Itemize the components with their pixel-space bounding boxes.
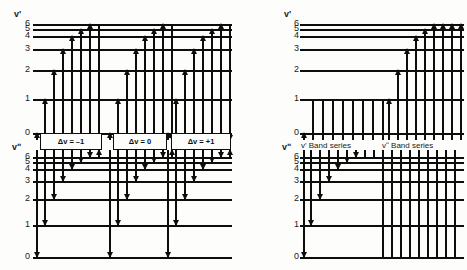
left-transition-dv0-up-4 xyxy=(153,29,155,140)
right-upper-series-tick-6 xyxy=(372,99,374,140)
left-transition-dv0-down-1 xyxy=(126,150,128,199)
right-lower-level-label-0: 0 xyxy=(285,252,299,261)
delta-v-plus-one-caption: Δv = +1 xyxy=(171,133,231,150)
left-transition-dv0-up-4-head xyxy=(151,28,157,34)
right-lower-series-tick-5 xyxy=(427,150,429,257)
left-lower-level-label-0: 0 xyxy=(16,252,30,261)
left-transition-dvp1-down-2-head xyxy=(191,176,197,182)
right-upper-level-label-2: 2 xyxy=(285,65,299,74)
delta-v-minus-one-caption: Δv = –1 xyxy=(40,133,102,150)
right-lower-series-tick-2 xyxy=(400,150,402,257)
left-transition-dvm1-up-2 xyxy=(62,49,64,140)
left-lower-level-label-2: 2 xyxy=(16,194,30,203)
right-upper-series-arrow-2-head xyxy=(404,48,410,54)
left-transition-dvm1-up-4 xyxy=(80,29,82,140)
left-upper-level-6 xyxy=(33,24,232,26)
left-transition-dvp1-origin-down-head xyxy=(165,252,171,258)
left-transition-dvm1-down-5-head xyxy=(87,152,93,158)
right-upper-series-origin-head xyxy=(301,132,307,138)
right-upper-series-tick-0 xyxy=(312,99,314,140)
right-upper-series-arrow-1-head xyxy=(395,69,401,75)
left-transition-dvm1-up-3-head xyxy=(69,35,75,41)
left-lower-level-1 xyxy=(33,225,232,227)
left-transition-dvm1-down-3-head xyxy=(69,164,75,170)
left-transition-dvm1-up-0-head xyxy=(42,98,48,104)
right-lower-level-label-1: 1 xyxy=(285,220,299,229)
left-transition-dvm1-down-1 xyxy=(53,150,55,199)
left-lower-level-label-4: 4 xyxy=(16,164,30,173)
left-lower-level-2 xyxy=(33,199,232,201)
left-transition-dvp1-down-1-head xyxy=(182,194,188,200)
left-transition-dvm1-down-1-head xyxy=(51,194,57,200)
left-transition-dv0-up-1-head xyxy=(124,69,130,75)
left-transition-dvp1-up-1 xyxy=(184,70,186,140)
right-lower-series-tick-4 xyxy=(418,150,420,257)
right-upper-series-long-1-head xyxy=(449,23,455,29)
right-upper-series-arrow-4 xyxy=(424,29,426,140)
right-lower-series-origin-head xyxy=(301,252,307,258)
right-lower-series-short-2 xyxy=(382,150,384,157)
left-transition-dvp1-up-5-head xyxy=(218,23,224,29)
right-upper-level-5 xyxy=(300,29,464,31)
v-double-prime-band-series-caption: vʺ Band series xyxy=(381,141,434,150)
left-transition-dvm1-down-2-head xyxy=(60,176,66,182)
left-upper-level-label-0: 0 xyxy=(16,128,30,137)
left-transition-dv0-down-3-head xyxy=(142,164,148,170)
right-lower-series-tick-6 xyxy=(436,150,438,257)
right-upper-series-tick-4 xyxy=(352,99,354,140)
left-transition-dvm1-terminal-up xyxy=(98,24,100,140)
left-lower-level-0 xyxy=(33,257,232,259)
left-transition-dvp1-down-0-head xyxy=(173,220,179,226)
right-upper-series-tick-1 xyxy=(322,99,324,140)
right-upper-series-tick-3 xyxy=(342,99,344,140)
right-lower-series-arrow-1 xyxy=(319,150,321,199)
right-upper-series-long-1 xyxy=(451,24,453,140)
left-transition-dvm1-origin-down-head xyxy=(34,252,40,258)
left-transition-dvp1-down-3-head xyxy=(200,164,206,170)
delta-v-zero-caption: Δv = 0 xyxy=(113,133,167,150)
left-transition-dv0-down-4-head xyxy=(151,157,157,163)
left-transition-dvp1-up-2-head xyxy=(191,48,197,54)
left-transition-dvm1-up-4-head xyxy=(78,28,84,34)
left-transition-dvp1-down-1 xyxy=(184,150,186,199)
right-upper-level-3 xyxy=(300,49,464,51)
left-lower-level-label-1: 1 xyxy=(16,220,30,229)
left-transition-dv0-down-1-head xyxy=(124,194,130,200)
left-transition-dvp1-down-0 xyxy=(175,150,177,225)
right-upper-level-4 xyxy=(300,36,464,38)
left-transition-dv0-up-2-head xyxy=(133,48,139,54)
left-transition-dvm1-down-0-head xyxy=(42,220,48,226)
left-transition-dvp1-terminal-up xyxy=(229,24,231,140)
left-transition-dvm1-up-1-head xyxy=(51,69,57,75)
left-transition-dv0-up-0-head xyxy=(115,98,121,104)
left-upper-level-5 xyxy=(33,29,232,31)
right-upper-series-arrow-2 xyxy=(406,49,408,140)
left-transition-dvp1-up-4 xyxy=(211,29,213,140)
left-upper-level-label-3: 3 xyxy=(16,44,30,53)
left-transition-dvp1-up-2 xyxy=(193,49,195,140)
left-upper-level-label-4: 4 xyxy=(16,31,30,40)
left-transition-dv0-down-0-head xyxy=(115,220,121,226)
right-lower-series-tick-3 xyxy=(409,150,411,257)
left-transition-dvp1-down-4-head xyxy=(209,157,215,163)
right-upper-series-arrow-3 xyxy=(415,36,417,140)
right-lower-series-arrow-5-head xyxy=(353,152,359,158)
left-transition-dv0-up-1 xyxy=(126,70,128,140)
right-upper-series-long-2 xyxy=(460,24,462,140)
right-lower-state-label: vʺ xyxy=(282,143,291,152)
right-lower-series-tick-0 xyxy=(382,150,384,257)
right-lower-series-short-1 xyxy=(373,150,375,157)
left-transition-dv0-down-0 xyxy=(117,150,119,225)
right-upper-series-tick-5 xyxy=(362,99,364,140)
left-transition-dv0-up-3 xyxy=(144,36,146,140)
left-upper-level-label-2: 2 xyxy=(16,65,30,74)
right-lower-series-tick-8 xyxy=(454,150,456,257)
right-upper-series-arrow-0-head xyxy=(386,98,392,104)
left-transition-dv0-origin-down-head xyxy=(107,252,113,258)
right-upper-series-arrow-0 xyxy=(388,99,390,140)
right-lower-level-label-4: 4 xyxy=(285,164,299,173)
left-transition-dv0-up-3-head xyxy=(142,35,148,41)
right-lower-level-label-3: 3 xyxy=(285,176,299,185)
energy-level-diagram: 6543210v'6543210vʺΔv = –1Δv = 0Δv = +165… xyxy=(0,0,467,270)
left-transition-dvp1-up-3 xyxy=(202,36,204,140)
